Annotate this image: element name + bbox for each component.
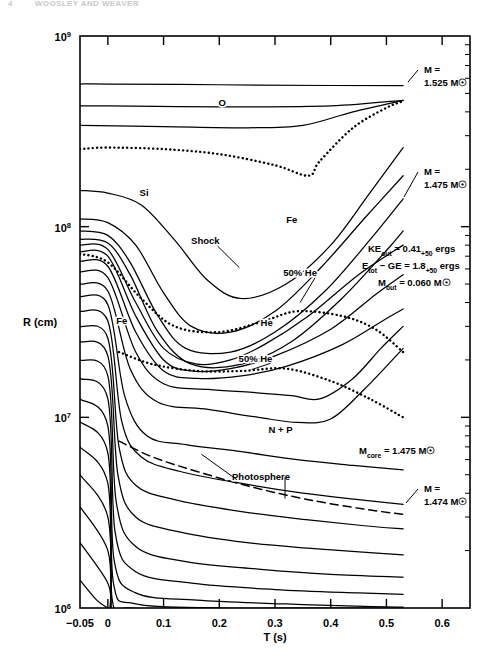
edge-annotation-leader-m-1474: [406, 489, 418, 503]
y-tick-label: 109: [55, 30, 71, 44]
edge-annotation-leader-m-1525: [408, 70, 418, 82]
inline-label: N + P: [269, 424, 294, 435]
series-shell-He-upper: [80, 244, 403, 365]
series-shell-inner-4: [80, 341, 403, 555]
inline-label: Photosphere: [232, 471, 290, 482]
x-tick-label: 0.5: [379, 617, 394, 629]
x-tick-label: 0.2: [212, 617, 227, 629]
series-shell-Fe-1: [80, 176, 403, 333]
leader-line: [201, 454, 237, 480]
series-shell-Si-outer: [80, 148, 403, 299]
annot-sub2: +50: [421, 250, 433, 257]
annot-sub: core: [367, 452, 382, 459]
annot-prefix: KE: [368, 243, 381, 254]
annot-body: = 1.475 M☉: [381, 445, 435, 456]
y-tick-exponent: 8: [67, 220, 71, 229]
series-shell-inner-5: [80, 360, 403, 577]
x-tick-label: 0.1: [156, 617, 171, 629]
leader-line-layer: [201, 246, 315, 498]
y-tick-label: 107: [55, 411, 71, 425]
series-shell-inner-11: [80, 507, 111, 608]
x-tick-label: 0.3: [267, 617, 282, 629]
annot-suffix: ergs: [437, 260, 460, 271]
inline-label: Shock: [191, 235, 220, 246]
y-axis-title: R (cm): [23, 316, 58, 328]
x-tick-label: −0.05: [66, 617, 94, 629]
edge-annotation-line1-m-1475: M =: [424, 166, 441, 177]
inline-label: Fe: [286, 214, 297, 225]
text-annotation-ke-out: KEout = 0.41+50 ergs: [368, 243, 455, 257]
inline-label: Fe: [116, 315, 127, 326]
figure-root: 4WOOSLEY AND WEAVER −0.0500.10.20.30.40.…: [0, 0, 496, 666]
text-annotation-m-out: Mout = 0.060 M☉: [378, 277, 451, 291]
mass-shell-radius-chart: −0.0500.10.20.30.40.50.6 106107108109 OO…: [0, 0, 496, 666]
y-tick-exponent: 7: [67, 411, 71, 420]
annot-sub2: +50: [426, 267, 438, 274]
annot-body: − GE = 1.8: [377, 260, 426, 271]
data-series-layer: [80, 84, 403, 612]
annot-suffix: ergs: [433, 243, 456, 254]
x-tick-label: 0: [105, 617, 111, 629]
text-annotation-m-core: Mcore = 1.475 M☉: [359, 445, 435, 459]
series-shell-Fe-2: [80, 199, 403, 354]
series-shell-inner-10: [80, 475, 111, 608]
edge-annotation-line2-m-1474: 1.474 M☉: [424, 496, 467, 507]
x-axis-ticks: [108, 36, 442, 608]
inline-label: Si: [140, 187, 149, 198]
x-tick-label: 0.6: [434, 617, 449, 629]
inline-label: 50% He: [239, 353, 273, 364]
series-shell-outer-1: [80, 84, 403, 86]
series-shell-NP-1: [80, 270, 403, 400]
series-shell-inner-1: [80, 295, 403, 470]
edge-annotation-line2-m-1475: 1.475 M☉: [424, 179, 467, 190]
inline-label: He: [261, 317, 273, 328]
annot-prefix: M: [359, 445, 367, 456]
x-axis-title: T (s): [263, 631, 287, 643]
edge-annotation-line1-m-1474: M =: [424, 483, 441, 494]
edge-annotation-leader-m-1475: [404, 172, 418, 197]
annot-body: = 0.41: [392, 243, 422, 254]
y-tick-exponent: 6: [67, 602, 71, 611]
text-annotation-e-tot: Etot − GE = 1.8+50 ergs: [362, 260, 460, 274]
text-annotation-layer: KEout = 0.41+50 ergsEtot − GE = 1.8+50 e…: [359, 243, 460, 459]
annot-prefix: M: [378, 277, 386, 288]
edge-annotation-line1-m-1525: M =: [424, 64, 441, 75]
leader-line: [218, 246, 240, 267]
annot-body: = 0.060 M☉: [397, 277, 451, 288]
x-axis-tick-labels: −0.0500.10.20.30.40.50.6: [66, 617, 450, 629]
edge-annotation-line2-m-1525: 1.525 M☉: [424, 77, 467, 88]
series-shell-inner-8: [80, 422, 403, 609]
x-tick-label: 0.4: [323, 617, 339, 629]
series-shell-inner-13: [80, 580, 108, 608]
series-shell-outer-2: [80, 100, 403, 107]
y-tick-label: 106: [55, 602, 71, 616]
inline-label: O: [218, 97, 225, 108]
y-tick-label: 108: [55, 220, 71, 234]
series-shock-front: [80, 101, 403, 176]
series-shell-inner-6: [80, 378, 403, 594]
inline-label: 50% He: [283, 267, 317, 278]
y-tick-exponent: 9: [67, 30, 71, 39]
